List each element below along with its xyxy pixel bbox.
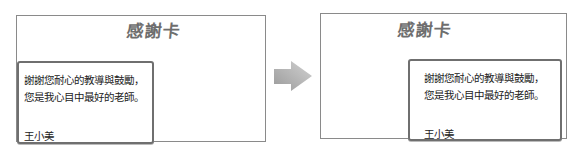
card-before-signature: 王小美 [24,128,54,143]
card-before-message-line-1: 謝謝您耐心的教導與鼓勵， [24,72,144,87]
card-before-title: 感謝卡 [126,17,183,42]
card-after-title: 感謝卡 [397,16,454,41]
card-before-message-line-2: 您是我心目中最好的老師。 [24,89,144,104]
card-after-message-line-1: 謝謝您耐心的教導與鼓勵， [424,70,544,85]
right-arrow-icon [272,59,314,93]
card-after-message-line-2: 您是我心目中最好的老師。 [424,87,544,102]
card-after-signature: 王小美 [424,126,454,141]
